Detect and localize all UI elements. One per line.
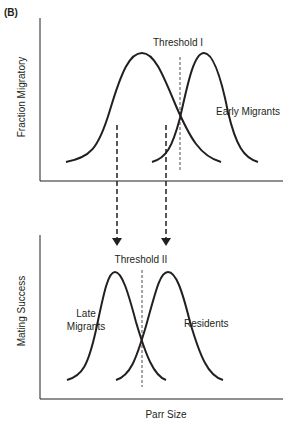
panel-label: (B) xyxy=(4,7,18,18)
migrants-label-line2: Migrants xyxy=(67,321,105,332)
arrow-down-icon xyxy=(161,238,171,246)
top-panel: Fraction Migratory Threshold I Early Mig… xyxy=(16,18,283,181)
threshold-diagram: (B) Fraction Migratory Threshold I Early… xyxy=(0,0,298,424)
bottom-panel: Mating Success Threshold II Late Migrant… xyxy=(16,235,283,420)
late-label-line1: Late xyxy=(76,308,96,319)
arrow-down-icon xyxy=(112,238,122,246)
bottom-y-label: Mating Success xyxy=(16,276,27,347)
residents-label: Residents xyxy=(184,318,228,329)
connecting-arrows xyxy=(112,125,171,246)
threshold-1-label: Threshold I xyxy=(153,37,203,48)
top-left-curve xyxy=(66,53,221,162)
x-axis-label: Parr Size xyxy=(145,409,187,420)
early-migrants-label: Early Migrants xyxy=(216,106,280,117)
threshold-2-label: Threshold II xyxy=(115,254,168,265)
top-y-label: Fraction Migratory xyxy=(16,57,27,138)
